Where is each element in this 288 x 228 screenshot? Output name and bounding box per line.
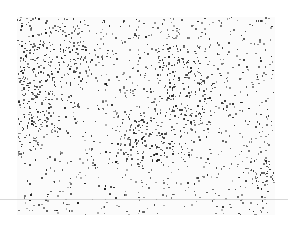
horizontal-divider-line [0,199,288,200]
image-canvas [17,17,275,215]
stipple-image [17,17,275,215]
